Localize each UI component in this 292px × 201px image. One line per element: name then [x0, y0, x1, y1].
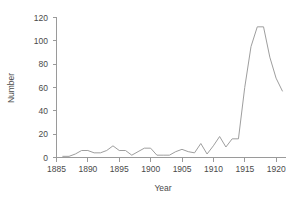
y-tick-label-60: 60: [39, 83, 49, 93]
x-axis: 1885 1890 1895 1900 1905 1910 1915 1920 …: [47, 158, 286, 194]
x-axis-ticks: [57, 158, 277, 162]
x-tick-label-1910: 1910: [204, 164, 223, 174]
y-tick-label-80: 80: [39, 59, 49, 69]
line-chart: 0 20 40 60 80 100 120 Number: [0, 0, 292, 201]
x-axis-title: Year: [154, 183, 171, 193]
x-tick-label-1900: 1900: [141, 164, 160, 174]
x-tick-label-1890: 1890: [78, 164, 97, 174]
y-axis-title: Number: [6, 73, 16, 103]
x-tick-label-1885: 1885: [47, 164, 66, 174]
y-axis-ticks: [53, 18, 57, 158]
y-tick-label-40: 40: [39, 106, 49, 116]
y-tick-label-0: 0: [43, 153, 48, 163]
y-axis-tick-labels: 0 20 40 60 80 100 120: [34, 13, 48, 163]
x-axis-tick-labels: 1885 1890 1895 1900 1905 1910 1915 1920: [47, 164, 286, 174]
y-tick-label-100: 100: [34, 36, 48, 46]
x-tick-label-1915: 1915: [235, 164, 254, 174]
x-tick-label-1920: 1920: [267, 164, 286, 174]
y-tick-label-120: 120: [34, 13, 48, 23]
y-axis: 0 20 40 60 80 100 120 Number: [6, 13, 57, 163]
chart-canvas: 0 20 40 60 80 100 120 Number: [0, 0, 292, 201]
data-series-line: [63, 27, 283, 157]
y-tick-label-20: 20: [39, 129, 49, 139]
x-tick-label-1895: 1895: [110, 164, 129, 174]
x-tick-label-1905: 1905: [173, 164, 192, 174]
